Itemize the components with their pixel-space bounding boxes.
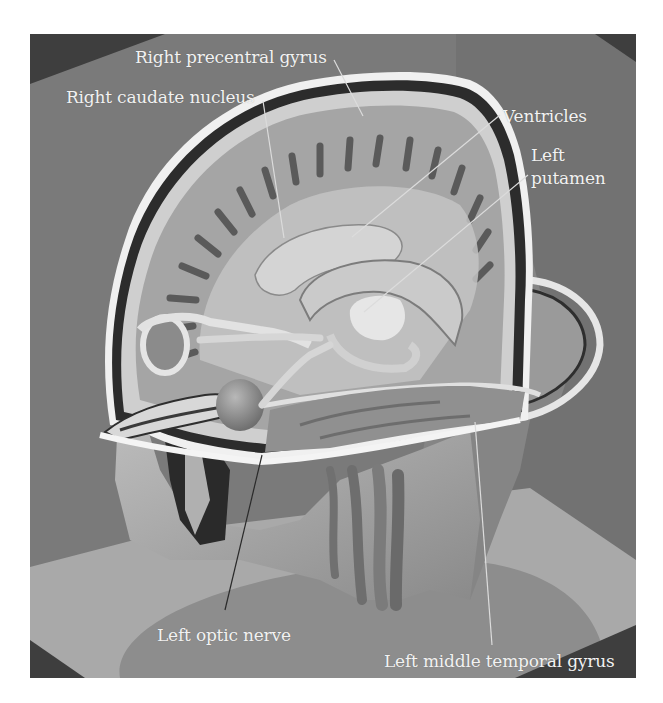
label-left-putamen-line2: putamen — [531, 168, 606, 188]
label-right-precentral-gyrus: Right precentral gyrus — [135, 47, 327, 67]
rendering-graphics — [30, 34, 636, 678]
label-ventricles: Ventricles — [503, 106, 587, 126]
label-right-caudate-nucleus: Right caudate nucleus — [66, 87, 255, 107]
label-left-middle-temporal-gyrus: Left middle temporal gyrus — [384, 651, 614, 671]
mri-head-rendering: Right precentral gyrus Right caudate nuc… — [30, 34, 636, 678]
label-left-optic-nerve: Left optic nerve — [157, 625, 291, 645]
label-left-putamen-line1: Left — [531, 145, 565, 165]
